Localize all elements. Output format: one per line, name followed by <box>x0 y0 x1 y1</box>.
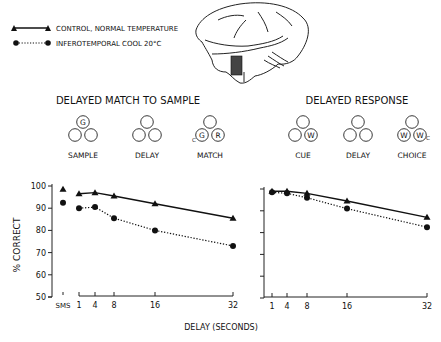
legend-label-cool: INFEROTEMPORAL COOL 20°C <box>56 40 162 48</box>
data-point-circle <box>269 189 275 195</box>
data-point-triangle <box>60 186 67 192</box>
stage-delay: DELAY <box>344 116 373 160</box>
y-axis-label: % CORRECT <box>12 217 22 272</box>
y-tick-label: 60 <box>36 271 46 280</box>
sulcus-lateral <box>205 36 283 46</box>
sulcus-parietal <box>258 12 268 32</box>
stimulus-well-icon <box>69 129 82 142</box>
data-point-circle <box>344 206 350 212</box>
data-point-circle <box>424 224 430 230</box>
y-tick-label: 90 <box>36 204 46 213</box>
stimulus-well-icon <box>85 129 98 142</box>
data-point-circle <box>230 243 236 249</box>
series-control <box>60 186 237 221</box>
chart-panel-0: 50607080901001481632SMS <box>31 182 238 310</box>
legend-item-control: CONTROL, NORMAL TEMPERATURE <box>11 25 178 33</box>
circle-marker-icon <box>13 40 19 46</box>
stage-label: CUE <box>295 151 311 160</box>
x-tick-label: 4 <box>284 302 289 311</box>
stimulus-letter: W <box>400 131 408 140</box>
x-tick-label: 16 <box>342 302 352 311</box>
stage-label: MATCH <box>197 151 223 160</box>
correct-subscript: C <box>192 137 196 143</box>
x-tick-label-sms: SMS <box>56 302 71 310</box>
stage-sample: GSAMPLE <box>68 116 98 160</box>
task-title: DELAYED MATCH TO SAMPLE <box>56 95 200 106</box>
figure: CONTROL, NORMAL TEMPERATURE INFEROTEMPOR… <box>0 0 441 342</box>
stimulus-letter: W <box>416 131 424 140</box>
correct-subscript: C <box>426 135 430 141</box>
stimulus-well-icon <box>149 129 162 142</box>
inferotemporal-shaded-region <box>231 56 242 75</box>
stimulus-well-icon <box>289 129 302 142</box>
y-tick-label: 50 <box>36 293 46 302</box>
data-point-circle <box>92 204 98 210</box>
x-tick-label: 8 <box>304 302 309 311</box>
series-cool <box>60 200 236 249</box>
data-point-circle <box>60 200 66 206</box>
x-axis-label: DELAY (SECONDS) <box>184 323 258 332</box>
stimulus-letter: W <box>307 131 315 140</box>
cerebellum-line <box>268 56 284 66</box>
stimulus-well-icon <box>133 129 146 142</box>
task-0: DELAYED MATCH TO SAMPLEGSAMPLEDELAYGRCMA… <box>56 95 224 160</box>
stage-label: DELAY <box>346 151 370 160</box>
sulcus-occipital <box>276 12 292 26</box>
y-tick-label: 80 <box>36 226 46 235</box>
stage-label: CHOICE <box>398 151 427 160</box>
charts: 50607080901001481632SMS1481632 <box>31 182 432 311</box>
series-control <box>269 188 431 220</box>
task-title: DELAYED RESPONSE <box>306 95 409 106</box>
sulcus-central <box>234 20 246 38</box>
stage-label: SAMPLE <box>68 151 98 160</box>
stimulus-letter: G <box>199 131 205 140</box>
data-point-circle <box>111 215 117 221</box>
data-point-circle <box>76 205 82 211</box>
series-line <box>79 207 233 246</box>
legend-item-cool: INFEROTEMPORAL COOL 20°C <box>13 40 161 48</box>
legend-label-control: CONTROL, NORMAL TEMPERATURE <box>56 25 178 33</box>
series-cool <box>269 189 430 230</box>
x-tick-label: 32 <box>422 302 432 311</box>
stimulus-well-icon <box>344 129 357 142</box>
stimulus-well-icon <box>204 116 217 129</box>
sulcus-frontal <box>218 15 244 20</box>
stimulus-well-icon <box>141 116 154 129</box>
stage-match: GRCMATCH <box>192 116 224 160</box>
legend: CONTROL, NORMAL TEMPERATURE INFEROTEMPOR… <box>11 25 178 48</box>
data-point-circle <box>152 227 158 233</box>
data-point-circle <box>284 190 290 196</box>
stimulus-well-icon <box>352 116 365 129</box>
x-tick-label: 32 <box>228 301 238 310</box>
stimulus-well-icon <box>297 116 310 129</box>
stimulus-well-icon <box>406 116 419 129</box>
stage-delay: DELAY <box>133 116 162 160</box>
x-tick-label: 16 <box>150 301 160 310</box>
stimulus-well-icon <box>360 129 373 142</box>
task-1: DELAYED RESPONSEWCUEDELAYWWCCHOICE <box>289 95 430 160</box>
x-tick-label: 1 <box>76 301 81 310</box>
y-tick-label: 100 <box>31 182 46 191</box>
task-diagrams: DELAYED MATCH TO SAMPLEGSAMPLEDELAYGRCMA… <box>56 95 430 160</box>
series-line <box>272 191 427 217</box>
y-tick-label: 70 <box>36 249 46 258</box>
stage-label: DELAY <box>135 151 159 160</box>
stage-choice: WWCCHOICE <box>398 116 431 160</box>
brain-illustration <box>196 3 309 83</box>
stimulus-letter: G <box>80 118 86 127</box>
data-point-circle <box>304 195 310 201</box>
chart-panel-1: 1481632 <box>260 187 432 311</box>
x-tick-label: 4 <box>92 301 97 310</box>
stage-cue: WCUE <box>289 116 318 160</box>
circle-marker-icon <box>45 40 51 46</box>
x-tick-label: 8 <box>111 301 116 310</box>
stimulus-letter: R <box>215 131 220 140</box>
x-tick-label: 1 <box>269 302 274 311</box>
